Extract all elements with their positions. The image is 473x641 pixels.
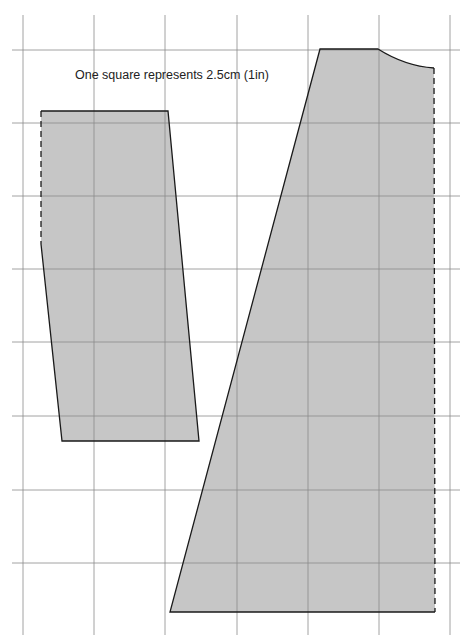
- piece-fills: [41, 49, 435, 612]
- pattern-diagram: One square represents 2.5cm (1in): [0, 0, 473, 641]
- large-piece-fill: [170, 49, 435, 612]
- small-piece-fill: [41, 111, 199, 441]
- scale-caption: One square represents 2.5cm (1in): [75, 68, 269, 82]
- pattern-grid-drawing: [0, 0, 473, 641]
